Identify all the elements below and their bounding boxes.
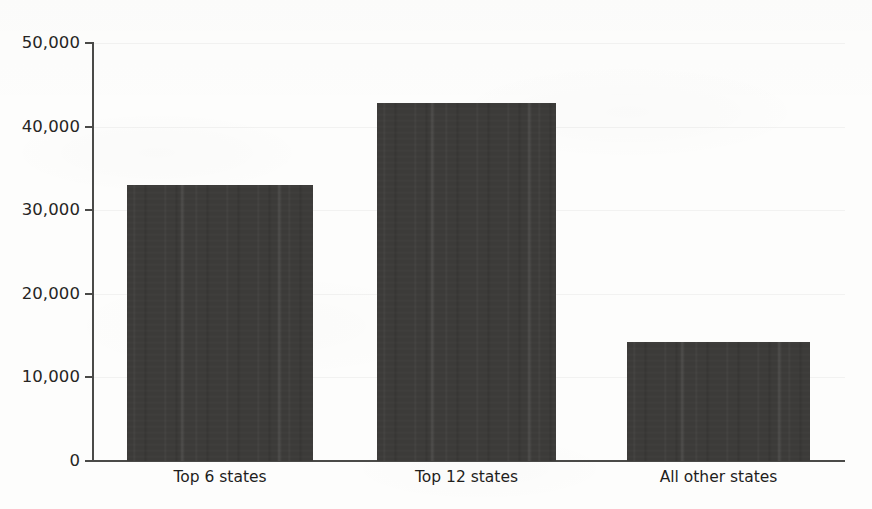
y-axis-tick (85, 460, 93, 462)
bar[interactable] (377, 103, 556, 461)
y-axis-tick-label: 10,000 (6, 369, 80, 386)
y-axis-tick (85, 126, 93, 128)
x-axis-label: Top 12 states (377, 470, 556, 486)
y-axis-tick-label: 20,000 (6, 286, 80, 303)
y-axis-tick-label: 30,000 (6, 202, 80, 219)
bar[interactable] (127, 185, 313, 461)
y-axis-tick (85, 376, 93, 378)
y-axis-tick-label: 50,000 (6, 35, 80, 52)
y-axis-tick (85, 293, 93, 295)
bar-chart: 010,00020,00030,00040,00050,000 Top 6 st… (0, 0, 872, 509)
plot-area (93, 43, 845, 461)
x-axis-label: Top 6 states (127, 470, 313, 486)
x-axis-label: All other states (627, 470, 810, 486)
y-axis-tick-label: 40,000 (6, 118, 80, 135)
y-axis-tick-label: 0 (6, 453, 80, 470)
bar[interactable] (627, 342, 810, 461)
y-axis-tick (85, 209, 93, 211)
y-axis-tick (85, 42, 93, 44)
